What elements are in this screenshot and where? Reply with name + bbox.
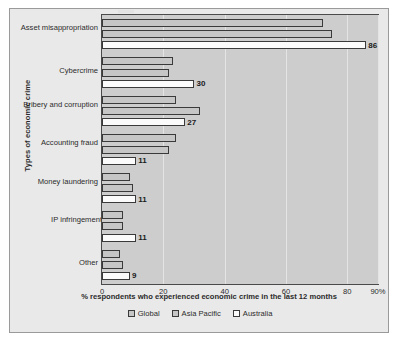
bar bbox=[102, 134, 176, 142]
bar bbox=[102, 250, 120, 258]
y-axis-tick-labels: Asset misappropriationCybercrimeBribery … bbox=[10, 14, 98, 285]
category-label: Asset misappropriation bbox=[12, 23, 98, 32]
scan-artifact bbox=[118, 10, 134, 13]
legend-swatch-icon bbox=[233, 310, 240, 317]
bar bbox=[102, 195, 136, 203]
legend-entry[interactable]: Australia bbox=[233, 309, 273, 318]
bar bbox=[102, 41, 366, 49]
bar bbox=[102, 173, 130, 181]
bar-value-label: 11 bbox=[138, 234, 146, 242]
category-label: Money laundering bbox=[12, 177, 98, 186]
bar-value-label: 11 bbox=[138, 196, 146, 204]
legend-swatch-icon bbox=[128, 310, 135, 317]
bar bbox=[102, 211, 123, 219]
category-label: IP infringement bbox=[10, 215, 102, 224]
chart-legend: GlobalAsia PacificAustralia bbox=[10, 309, 390, 318]
bar bbox=[102, 261, 123, 269]
bar bbox=[102, 118, 185, 126]
category-label: Accounting fraud bbox=[12, 138, 98, 147]
bar bbox=[102, 57, 173, 65]
gridline bbox=[286, 15, 287, 284]
bar bbox=[102, 69, 169, 77]
bar bbox=[102, 96, 176, 104]
gridline bbox=[378, 15, 379, 284]
bar-value-label: 86 bbox=[368, 42, 377, 50]
x-axis-title: % respondents who experienced economic c… bbox=[34, 292, 384, 301]
bar bbox=[102, 107, 200, 115]
bar bbox=[102, 30, 332, 38]
category-label: Other bbox=[12, 258, 98, 267]
legend-entry[interactable]: Global bbox=[128, 309, 160, 318]
legend-entry[interactable]: Asia Pacific bbox=[172, 309, 221, 318]
bar bbox=[102, 157, 136, 165]
bar bbox=[102, 184, 133, 192]
legend-label: Australia bbox=[243, 309, 273, 318]
bar bbox=[102, 19, 323, 27]
bar bbox=[102, 272, 130, 280]
gridline bbox=[225, 15, 226, 284]
bar-value-label: 27 bbox=[187, 119, 196, 127]
category-label: Cybercrime bbox=[12, 66, 98, 75]
chart-figure: Types of economic crime Asset misappropr… bbox=[9, 8, 389, 333]
bar bbox=[102, 80, 194, 88]
category-label: Bribery and corruption bbox=[12, 100, 98, 109]
bar bbox=[102, 222, 123, 230]
legend-swatch-icon bbox=[172, 310, 179, 317]
bar bbox=[102, 234, 136, 242]
legend-label: Asia Pacific bbox=[182, 309, 221, 318]
bar bbox=[102, 146, 169, 154]
bar-value-label: 9 bbox=[132, 272, 136, 280]
plot-area: 8630271111119 bbox=[101, 14, 379, 285]
bar-value-label: 11 bbox=[138, 157, 146, 165]
bar-value-label: 30 bbox=[197, 80, 206, 88]
gridline bbox=[347, 15, 348, 284]
legend-label: Global bbox=[138, 309, 160, 318]
